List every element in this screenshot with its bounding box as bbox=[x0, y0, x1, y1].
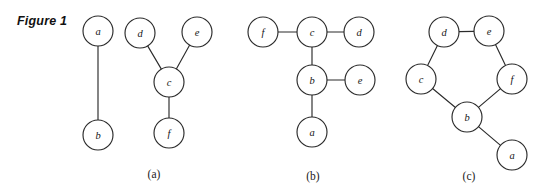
node-label: d bbox=[356, 27, 362, 38]
graph-node[interactable]: e bbox=[474, 16, 504, 46]
node-label: c bbox=[167, 77, 172, 88]
graph-node[interactable]: d bbox=[344, 17, 374, 47]
panel-caption: (a) bbox=[148, 168, 161, 180]
graph-node[interactable]: f bbox=[248, 17, 278, 47]
graph-node[interactable]: b bbox=[83, 120, 113, 150]
node-label: e bbox=[358, 75, 363, 86]
graph-node[interactable]: e bbox=[345, 65, 375, 95]
node-label: c bbox=[419, 74, 424, 85]
node-label: a bbox=[309, 127, 314, 138]
graph-node[interactable]: a bbox=[497, 140, 527, 170]
graph-canvas: abdecffcdbeadecfba bbox=[0, 0, 536, 195]
node-label: d bbox=[137, 28, 143, 39]
panel-caption: (b) bbox=[306, 170, 319, 182]
graph-node[interactable]: c bbox=[154, 67, 184, 97]
graph-node[interactable]: f bbox=[497, 64, 527, 94]
graph-node[interactable]: c bbox=[297, 17, 327, 47]
figure-root: Figure 1 abdecffcdbeadecfba (a)(b)(c) bbox=[0, 0, 536, 195]
graph-node[interactable]: b bbox=[452, 102, 482, 132]
graph-node[interactable]: a bbox=[83, 16, 113, 46]
graph-node[interactable]: c bbox=[406, 64, 436, 94]
graph-edge bbox=[495, 45, 505, 66]
node-label: a bbox=[95, 26, 100, 37]
graph-node[interactable]: d bbox=[125, 18, 155, 48]
node-label: e bbox=[487, 26, 492, 37]
node-label: d bbox=[441, 27, 447, 38]
graph-edge bbox=[478, 89, 500, 108]
graph-node[interactable]: b bbox=[297, 65, 327, 95]
panel-caption: (c) bbox=[463, 170, 476, 182]
graph-edge bbox=[176, 45, 189, 69]
graph-edge bbox=[433, 89, 456, 108]
node-label: a bbox=[509, 150, 514, 161]
node-label: c bbox=[310, 27, 315, 38]
graph-edge bbox=[428, 45, 438, 65]
graph-edge bbox=[478, 127, 500, 146]
graph-node[interactable]: d bbox=[429, 17, 459, 47]
nodes-layer: abdecffcdbeadecfba bbox=[83, 16, 527, 170]
node-label: b bbox=[464, 112, 469, 123]
node-label: b bbox=[95, 130, 100, 141]
graph-node[interactable]: f bbox=[154, 118, 184, 148]
node-label: e bbox=[195, 27, 200, 38]
graph-node[interactable]: a bbox=[297, 117, 327, 147]
graph-node[interactable]: e bbox=[182, 17, 212, 47]
node-label: b bbox=[309, 75, 314, 86]
graph-edge bbox=[148, 46, 162, 69]
